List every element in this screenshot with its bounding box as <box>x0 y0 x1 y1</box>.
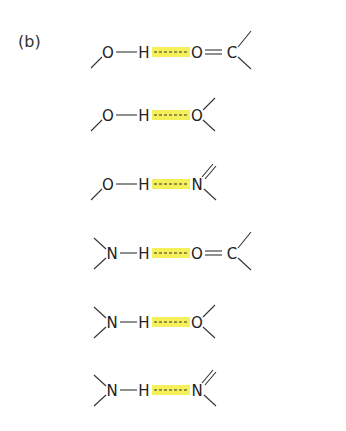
acceptor-atom: N <box>191 176 202 194</box>
donor-substituent-bond <box>94 327 106 338</box>
acceptor-double-bond <box>202 164 213 177</box>
donor-atom: N <box>106 245 117 263</box>
carbon-substituent-bond <box>238 31 251 47</box>
donor-substituent-bond <box>94 395 106 406</box>
donor-substituent-bond <box>94 238 106 249</box>
donor-substituent-bond <box>91 120 102 131</box>
acceptor-atom: O <box>191 314 203 332</box>
carbon-substituent-bond <box>238 258 251 270</box>
acceptor-atom: O <box>191 245 203 263</box>
hydrogen-atom: H <box>138 382 149 400</box>
hydrogen-atom: H <box>138 176 149 194</box>
donor-atom: O <box>102 107 114 125</box>
acceptor-substituent-bond <box>203 327 215 338</box>
acceptor-substituent-bond <box>203 98 215 110</box>
carbon-atom: C <box>227 245 237 263</box>
hbond-row: NHOC <box>94 232 251 270</box>
hbond-row: OHN <box>91 164 216 200</box>
donor-substituent-bond <box>94 307 106 318</box>
carbon-substituent-bond <box>238 57 251 69</box>
carbon-atom: C <box>227 44 237 62</box>
carbon-substituent-bond <box>238 232 251 248</box>
acceptor-double-bond <box>205 166 216 179</box>
hydrogen-atom: H <box>138 314 149 332</box>
acceptor-atom: N <box>191 382 202 400</box>
hbond-row: OHO <box>91 98 215 131</box>
acceptor-substituent-bond <box>203 120 215 131</box>
donor-atom: N <box>106 314 117 332</box>
donor-atom: O <box>102 176 114 194</box>
acceptor-double-bond <box>202 370 213 383</box>
donor-atom: O <box>102 44 114 62</box>
acceptor-substituent-bond <box>204 189 216 200</box>
hbond-row: NHO <box>94 305 215 338</box>
hydrogen-atom: H <box>138 245 149 263</box>
acceptor-atom: O <box>191 107 203 125</box>
acceptor-atom: O <box>191 44 203 62</box>
hydrogen-bond-diagram: OHOCOHOOHNNHOCNHONHN <box>0 0 346 431</box>
acceptor-substituent-bond <box>204 395 216 406</box>
hydrogen-atom: H <box>138 44 149 62</box>
acceptor-substituent-bond <box>203 305 215 317</box>
donor-substituent-bond <box>91 189 102 200</box>
hbond-row: OHOC <box>91 31 251 69</box>
hbond-row: NHN <box>94 370 216 406</box>
donor-substituent-bond <box>94 258 106 269</box>
acceptor-double-bond <box>205 372 216 385</box>
donor-substituent-bond <box>94 375 106 386</box>
donor-atom: N <box>106 382 117 400</box>
donor-substituent-bond <box>91 57 102 68</box>
hydrogen-atom: H <box>138 107 149 125</box>
